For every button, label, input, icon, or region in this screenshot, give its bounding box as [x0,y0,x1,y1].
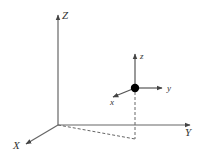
world-z-label: Z [62,10,68,21]
body-y-label: y [167,84,171,93]
body-x-label: x [110,98,114,107]
world-y-label: Y [185,127,191,138]
world-x-label: X [13,140,20,151]
body-z-label: z [140,52,144,61]
coordinate-frames-diagram [0,0,205,165]
projection-lines [58,92,135,139]
point-mass-dot [131,84,139,92]
body-frame [113,54,162,97]
world-frame [26,15,190,144]
world-x-axis [26,125,58,144]
dashed-ground-line [58,125,135,139]
